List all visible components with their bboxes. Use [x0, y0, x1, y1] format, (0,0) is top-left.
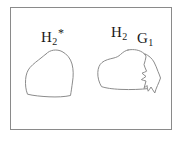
region-label-h2-star: H2*: [41, 27, 64, 47]
region-drawing-layer: [0, 0, 185, 141]
region-label-h2: H2: [111, 25, 128, 42]
label-base-h2: H: [111, 24, 122, 40]
label-base-h2-star: H: [41, 29, 52, 45]
label-superscript-h2-star: *: [58, 26, 64, 40]
label-subscript-h2-star: 2: [52, 36, 57, 47]
region-label-g1: G1: [137, 31, 154, 48]
label-subscript-h2: 2: [122, 31, 127, 42]
region-outline-h2-star: [25, 50, 73, 97]
label-subscript-g1: 1: [148, 37, 153, 48]
region-outline-h2: [98, 50, 152, 90]
figure-canvas: H2* H2 G1: [0, 0, 185, 141]
label-base-g1: G: [137, 30, 148, 46]
